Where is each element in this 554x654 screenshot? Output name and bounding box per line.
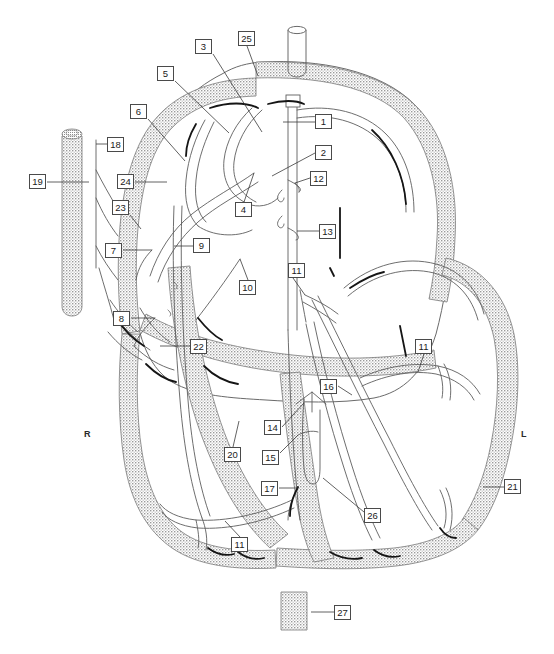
callout-label-2[interactable]: 2	[315, 145, 332, 160]
callout-label-11[interactable]: 11	[288, 263, 305, 278]
great-vein-left-trunk	[62, 129, 82, 316]
callout-label-11[interactable]: 11	[415, 339, 432, 354]
callout-label-23[interactable]: 23	[112, 200, 129, 215]
callout-label-18[interactable]: 18	[107, 137, 124, 152]
callout-label-17[interactable]: 17	[261, 481, 278, 496]
inferior-vessel-stump	[281, 592, 307, 630]
leader-line-20	[233, 421, 239, 447]
callout-label-26[interactable]: 26	[364, 508, 381, 523]
callout-label-27[interactable]: 27	[334, 605, 351, 620]
callout-label-11[interactable]: 11	[231, 537, 248, 552]
callout-label-20[interactable]: 20	[224, 447, 241, 462]
left-side-marker: L	[521, 429, 527, 439]
callout-label-25[interactable]: 25	[238, 31, 255, 46]
callout-label-24[interactable]: 24	[117, 174, 134, 189]
callout-label-7[interactable]: 7	[105, 243, 122, 258]
callout-label-21[interactable]: 21	[504, 479, 521, 494]
anatomical-diagram-figure: 1234567891011111112131415161718192021222…	[0, 0, 554, 654]
callout-label-3[interactable]: 3	[195, 39, 212, 54]
callout-label-22[interactable]: 22	[190, 339, 207, 354]
callout-label-12[interactable]: 12	[310, 171, 327, 186]
callout-label-6[interactable]: 6	[130, 104, 147, 119]
callout-label-15[interactable]: 15	[262, 450, 279, 465]
callout-label-14[interactable]: 14	[264, 420, 281, 435]
callout-label-4[interactable]: 4	[235, 202, 252, 217]
right-side-marker: R	[84, 429, 91, 439]
callout-label-8[interactable]: 8	[113, 311, 130, 326]
callout-label-10[interactable]: 10	[239, 280, 256, 295]
callout-label-1[interactable]: 1	[315, 114, 332, 129]
callout-label-19[interactable]: 19	[29, 174, 46, 189]
diagram-canvas	[0, 0, 554, 654]
callout-label-16[interactable]: 16	[320, 379, 337, 394]
callout-label-13[interactable]: 13	[319, 224, 336, 239]
callout-label-9[interactable]: 9	[193, 238, 210, 253]
leader-line-11	[225, 521, 240, 537]
callout-label-5[interactable]: 5	[157, 66, 174, 81]
